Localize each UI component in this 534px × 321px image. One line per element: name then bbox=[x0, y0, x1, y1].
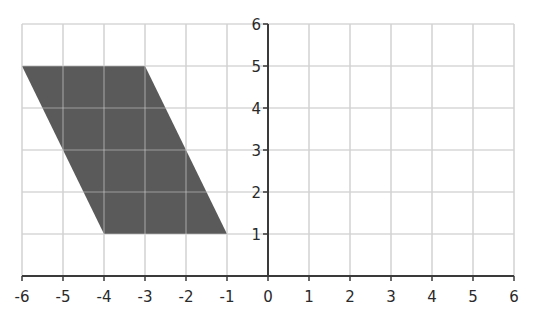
y-tick-label: 4 bbox=[251, 100, 261, 118]
x-tick-label: -3 bbox=[138, 288, 153, 306]
x-tick-label: -5 bbox=[56, 288, 71, 306]
x-tick-label: 2 bbox=[345, 288, 355, 306]
x-tick-label: 4 bbox=[427, 288, 437, 306]
y-tick-label: 5 bbox=[251, 58, 261, 76]
coordinate-grid-chart: -6-5-4-3-2-10123456 123456 bbox=[0, 0, 534, 321]
x-tick-label: -1 bbox=[220, 288, 235, 306]
x-tick-label: -6 bbox=[15, 288, 30, 306]
y-tick-label: 1 bbox=[251, 226, 261, 244]
x-axis-tick-labels: -6-5-4-3-2-10123456 bbox=[15, 288, 519, 306]
x-tick-label: -4 bbox=[97, 288, 112, 306]
x-tick-label: 0 bbox=[263, 288, 273, 306]
x-tick-label: 6 bbox=[509, 288, 519, 306]
y-tick-label: 6 bbox=[251, 16, 261, 34]
x-tick-label: 1 bbox=[304, 288, 314, 306]
x-tick-label: 3 bbox=[386, 288, 396, 306]
x-tick-label: 5 bbox=[468, 288, 478, 306]
y-tick-label: 3 bbox=[251, 142, 261, 160]
y-axis-tick-labels: 123456 bbox=[251, 16, 261, 244]
x-tick-label: -2 bbox=[179, 288, 194, 306]
y-tick-label: 2 bbox=[251, 184, 261, 202]
